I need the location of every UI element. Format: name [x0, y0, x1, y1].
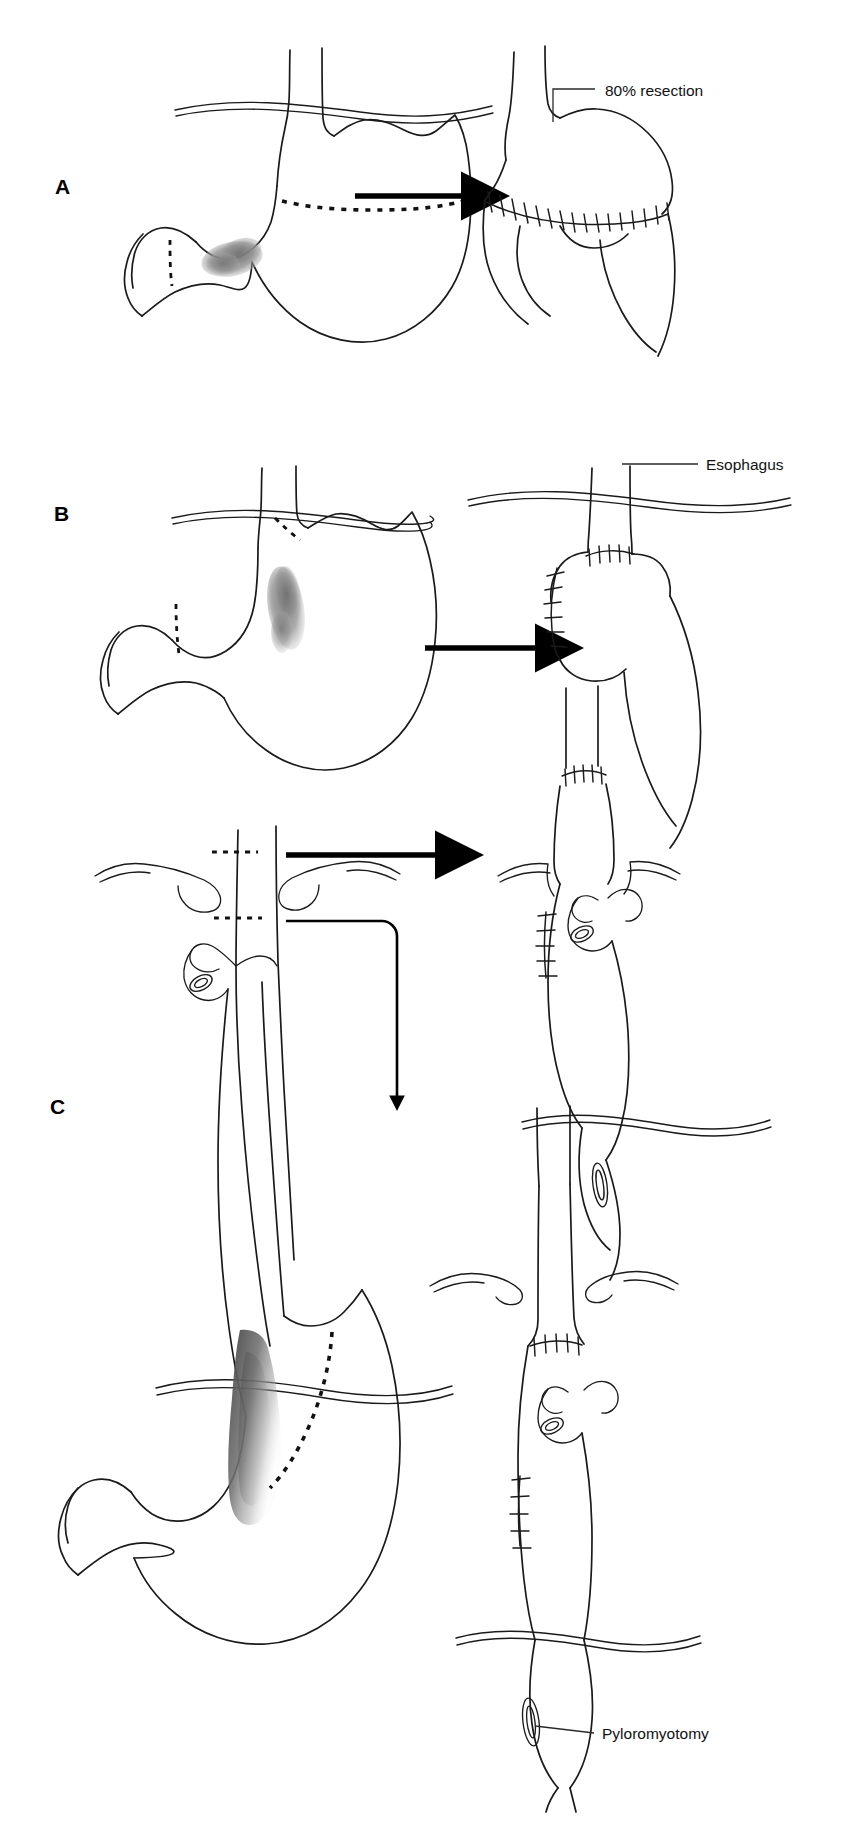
panel-c-group: Pyloromyotomy C — [50, 686, 771, 1812]
esophagus-label: Esophagus — [706, 456, 784, 473]
diaphragm-upper-edge-c-up — [522, 1115, 770, 1129]
gastric-remnant-right-shoulder-b — [632, 554, 670, 596]
vessel-arch-c-up — [568, 898, 612, 951]
esophagus-left-c-low — [537, 1108, 539, 1186]
diaphragm-lower-edge-c — [157, 1388, 453, 1404]
duodenum-pylorus-junction-b — [118, 682, 224, 714]
pylorus-right-wall-c-low — [570, 1640, 593, 1788]
cervical-anastomosis-suture-c-up — [562, 765, 606, 786]
esophagus-descending-left-c-low — [528, 1186, 539, 1346]
vessel-branch-right-c-up — [608, 889, 642, 921]
vessel-branch-upper-c-low — [542, 1387, 568, 1414]
duodenum-inferior-wall-c — [59, 1488, 78, 1575]
resection-line-a-duodenum — [170, 240, 172, 286]
resection-percent-label: 80% resection — [605, 82, 703, 99]
stomach-greater-curvature-b — [224, 512, 436, 770]
tumor-mass-c — [228, 1330, 281, 1525]
duodenum-pylorus-junction-c — [78, 1543, 174, 1575]
left-clavicle-inner-edge-c — [100, 872, 150, 882]
esophagus-left-wall-a — [277, 50, 290, 186]
diaphragm-lower-edge-c-low — [457, 1638, 701, 1652]
esophagus-left-wall-c — [236, 830, 270, 1346]
panel-b-group: Esophagus B — [54, 456, 791, 848]
conduit-body-right-c-up — [606, 941, 629, 1160]
conduit-staple-line-c-up — [536, 912, 557, 978]
tumor-mass-b — [262, 564, 311, 653]
vessel-branch-upper-c-up — [572, 896, 598, 923]
panel-letter-b: B — [54, 502, 69, 525]
duodenum-inner-wall-a-post — [517, 226, 550, 316]
panel-b-after-illustration — [468, 466, 791, 848]
duodenum-distal-right-c-low — [570, 1788, 576, 1812]
surgical-figure: 80% resection A — [0, 0, 854, 1836]
conduit-body-left-c-up — [548, 884, 582, 1128]
callout-leader-pyloromyotomy — [535, 1726, 594, 1733]
resection-line-b-cardia — [275, 518, 300, 540]
duodenum-inferior-wall-a — [124, 234, 143, 316]
left-clavicle-inner-c-up — [500, 872, 550, 882]
right-clavicle-inner-c-up — [628, 870, 676, 880]
vessel-lumen-outer-c-up — [568, 923, 596, 946]
vessel-branch-right-c — [236, 956, 277, 966]
callout-resection-percent: 80% resection — [553, 82, 703, 122]
duodenal-loop-descending-a-post — [600, 240, 656, 352]
tumor-mass-a — [198, 232, 266, 282]
duodenum-superior-wall-c — [65, 1479, 131, 1543]
esophagus-right-wall-c — [276, 826, 294, 1260]
vessel-lumen-outer-c — [187, 971, 215, 995]
anastomosis-suture-line-a — [484, 192, 669, 232]
diaphragm-upper-edge-c-low — [456, 1631, 700, 1645]
panel-a-group: 80% resection A — [55, 46, 703, 356]
gastric-remnant-dome-a — [560, 109, 673, 214]
diaphragm-upper-edge-b — [172, 510, 434, 524]
duodenum-left-wall-a-post — [483, 200, 528, 324]
esophagus-descending-right-c-low — [570, 1184, 584, 1344]
stomach-greater-curvature-a — [252, 115, 471, 342]
anastomosis-suture-line-b — [544, 545, 634, 660]
vessel-arch-c-low — [538, 1389, 582, 1443]
gastric-remnant-inferior-b — [560, 660, 626, 681]
esophagus-right-wall-a — [322, 48, 334, 136]
conduit-top-right-c-up — [606, 784, 614, 884]
pyloromyotomy-label: Pyloromyotomy — [602, 1725, 709, 1742]
esophagus-right-wall-b — [296, 466, 308, 528]
right-clavicle-inner-c-low — [624, 1280, 674, 1290]
right-clavicle-c — [279, 862, 400, 911]
gastric-remnant-inner-descent-b — [624, 672, 676, 826]
pylorus-left-wall-c-up — [579, 1128, 610, 1250]
gastric-remnant-left-shoulder-b — [551, 552, 588, 602]
panel-c-before-illustration — [59, 826, 453, 1644]
pyloromyotomy-incision-inner-c-up — [595, 1170, 606, 1201]
esophagus-left-wall-b-post — [588, 468, 592, 552]
figure-canvas: 80% resection A — [0, 0, 854, 1836]
left-clavicle-c-low — [430, 1274, 522, 1305]
panel-c-after-lower-illustration — [430, 1106, 701, 1812]
left-clavicle-c — [95, 864, 221, 913]
vessel-branch-left-c — [190, 944, 236, 972]
callout-pyloromyotomy: Pyloromyotomy — [535, 1725, 709, 1742]
esophagus-left-wall-a-post — [505, 52, 514, 160]
stomach-lesser-curvature-b — [172, 548, 258, 658]
intrathoracic-anastomosis-suture-c-low — [530, 1334, 582, 1356]
vessel-lumen-outer-c-low — [538, 1415, 566, 1438]
esophagus-left-wall-b — [258, 468, 262, 548]
callout-esophagus: Esophagus — [622, 456, 784, 473]
resection-line-a-body — [282, 199, 470, 210]
left-clavicle-inner-c-low — [434, 1282, 484, 1292]
duodenal-loop-upper-a-post — [560, 226, 628, 248]
pylorus-right-wall-c-up — [606, 1160, 620, 1280]
pyloromyotomy-incision-outer-c-up — [590, 1162, 610, 1208]
conduit-body-right-c-low — [582, 1433, 592, 1640]
panel-letter-c: C — [50, 1095, 65, 1118]
conduit-top-left-c-up — [554, 786, 560, 884]
diaphragm-lower-edge-a — [176, 109, 493, 123]
gastric-remnant-outer-descent-b — [670, 596, 700, 848]
duodenum-inferior-wall-b — [100, 632, 119, 714]
stomach-cardia-c — [284, 1290, 362, 1326]
esophagus-right-wall-b-post — [630, 466, 632, 554]
conduit-body-left-c-low — [518, 1346, 535, 1640]
right-clavicle-inner-edge-c — [347, 870, 396, 880]
duodenum-distal-left-c-low — [546, 1788, 558, 1812]
vessel-branch-right-c-low — [584, 1381, 618, 1413]
diaphragm-lower-edge-c-up — [523, 1122, 771, 1136]
